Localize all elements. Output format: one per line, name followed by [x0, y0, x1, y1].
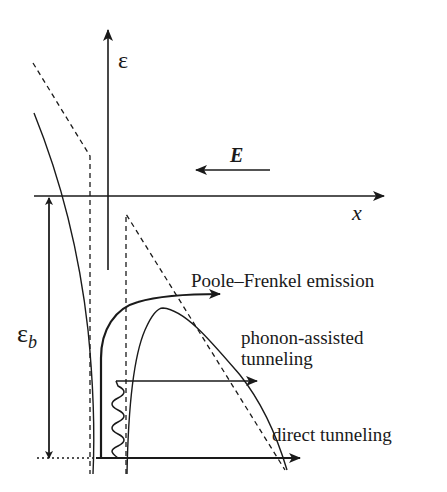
- left-potential-curve: [34, 113, 94, 474]
- energy-band-diagram: ε x E εb Poole–Frenkel emission phonon-a…: [0, 0, 447, 492]
- position-axis-label: x: [352, 202, 362, 224]
- barrier-height-label: εb: [17, 321, 37, 351]
- left-dashed-barrier: [33, 63, 90, 474]
- energy-axis-label: ε: [118, 48, 128, 72]
- poole-frenkel-label: Poole–Frenkel emission: [191, 271, 374, 290]
- poole-frenkel-arrow: [101, 294, 220, 458]
- direct-tunneling-label: direct tunneling: [272, 425, 392, 444]
- phonon-assisted-label-line1: phonon-assisted: [241, 328, 363, 347]
- diagram-canvas: [0, 0, 447, 492]
- phonon-wave: [112, 381, 124, 458]
- phonon-assisted-label-line2: tunneling: [241, 349, 313, 368]
- field-label: E: [230, 145, 243, 165]
